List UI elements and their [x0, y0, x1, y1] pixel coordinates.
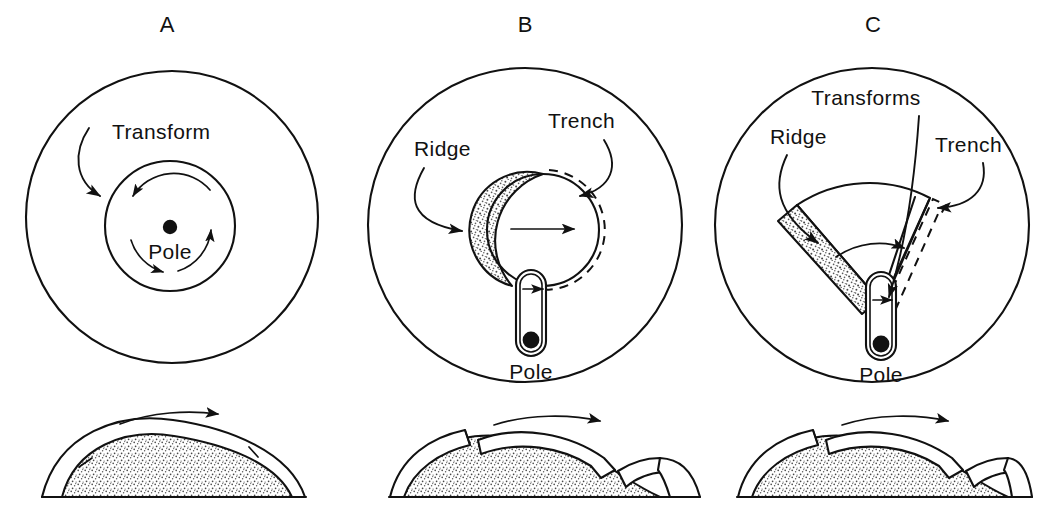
panel-b-trench-leader-arrow	[580, 140, 612, 196]
panel-b-letter: B	[518, 12, 533, 37]
panel-b-pole-dot	[523, 332, 540, 349]
cross-section-c	[737, 416, 1032, 497]
panel-c-pole-dot	[873, 336, 890, 353]
panel-c-transforms-label: Transforms	[811, 86, 920, 109]
panel-b-ridge-leader-arrow	[415, 168, 462, 231]
panel-b-trench-dashed-arc	[530, 170, 605, 290]
cross-section-b	[389, 416, 700, 497]
figure-root: A Pole Transform B	[0, 0, 1046, 519]
panel-c-pole-label: Pole	[859, 363, 903, 386]
cross-b-right-plate-segment	[658, 458, 700, 497]
panel-a-transform-leader-arrow	[78, 128, 100, 196]
geology-figure: A Pole Transform B	[0, 0, 1046, 519]
panel-b-plate-circle	[487, 174, 599, 286]
panel-a-transform-label: Transform	[112, 120, 211, 143]
cross-section-a	[42, 412, 306, 497]
cross-b-subducting-slab	[618, 458, 664, 487]
panel-c-trench-leader-arrow	[938, 163, 984, 208]
panel-c-letter: C	[865, 12, 881, 37]
panel-a-pole-dot	[163, 220, 177, 234]
cross-b-motion-arrow	[494, 416, 600, 425]
panel-b-ridge-label: Ridge	[414, 137, 471, 160]
panel-a-letter: A	[160, 12, 175, 37]
panel-b-pole-label: Pole	[509, 360, 553, 383]
panel-b: B Pole Ridge Trench	[368, 12, 682, 383]
panel-a-outer-circle	[26, 71, 318, 363]
cross-c-motion-arrow	[842, 416, 948, 425]
panel-a-pole-label: Pole	[148, 240, 192, 263]
panel-a-rotation-arc-upper	[133, 173, 210, 196]
panel-c-trench-label: Trench	[935, 133, 1002, 156]
panel-c-ridge-label: Ridge	[770, 125, 827, 148]
cross-c-right-plate-segment	[1004, 458, 1032, 497]
panel-c: C Pole Transforms Ridge Trench	[715, 12, 1029, 386]
panel-b-trench-label: Trench	[548, 109, 615, 132]
panel-a: A Pole Transform	[26, 12, 318, 363]
